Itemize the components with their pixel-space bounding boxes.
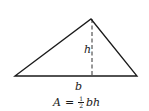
formula-equals: = xyxy=(65,97,74,108)
formula-rhs-variables: bh xyxy=(86,97,100,108)
area-formula: A = 1 2 bh xyxy=(53,96,100,109)
height-label: h xyxy=(84,44,91,55)
formula-lhs: A xyxy=(53,97,61,108)
fraction-denominator: 2 xyxy=(79,103,83,109)
base-label: b xyxy=(75,81,82,92)
formula-fraction: 1 2 xyxy=(78,96,84,109)
triangle-diagram xyxy=(0,0,149,111)
triangle-outline xyxy=(15,19,137,76)
